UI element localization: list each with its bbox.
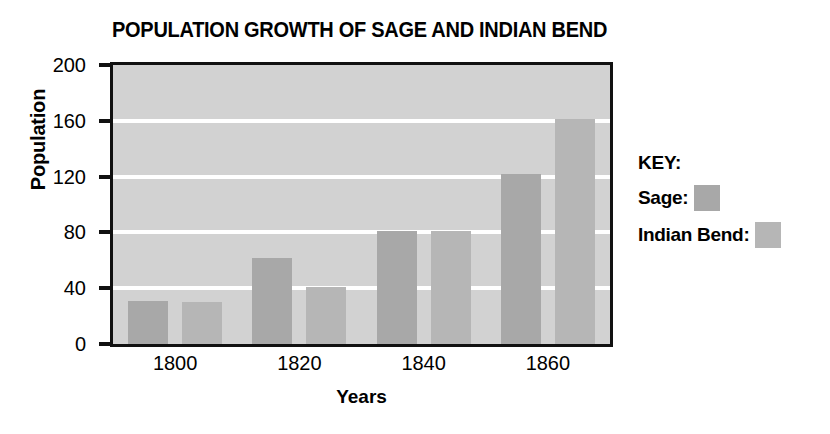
- legend-title: KEY:: [638, 152, 828, 174]
- legend-swatch-indianbend: [755, 222, 781, 248]
- bar-chart-figure: POPULATION GROWTH OF SAGE AND INDIAN BEN…: [0, 0, 830, 434]
- bar-sage-1800: [128, 301, 168, 344]
- y-tick-label-40: 40: [28, 277, 86, 300]
- plot-area: [110, 62, 613, 347]
- y-tick-mark-120: [99, 175, 110, 179]
- y-tick-mark-160: [99, 119, 110, 123]
- x-axis-title: Years: [110, 386, 613, 408]
- bar-indian-bend-1800: [182, 302, 222, 344]
- y-tick-label-200: 200: [28, 54, 86, 77]
- gridline-160: [113, 119, 610, 123]
- legend-entry-label: Sage:: [638, 187, 688, 209]
- x-tick-label-1800: 1800: [125, 352, 225, 375]
- bar-sage-1820: [252, 258, 292, 344]
- chart-title: POPULATION GROWTH OF SAGE AND INDIAN BEN…: [112, 18, 596, 43]
- x-axis-tick-labels: 1800182018401860: [110, 352, 613, 382]
- y-tick-mark-80: [99, 230, 110, 234]
- legend-entry-label: Indian Bend:: [638, 224, 749, 246]
- chart-legend: KEY: Sage:Indian Bend:: [638, 152, 828, 259]
- bar-indian-bend-1840: [431, 231, 471, 344]
- bar-indian-bend-1860: [555, 119, 595, 344]
- plot-inner: [113, 65, 610, 344]
- y-tick-label-160: 160: [28, 109, 86, 132]
- y-tick-mark-200: [99, 63, 110, 67]
- legend-entry-sage: Sage:: [638, 185, 828, 211]
- bar-indian-bend-1820: [306, 287, 346, 344]
- bar-sage-1840: [377, 231, 417, 344]
- bar-sage-1860: [501, 174, 541, 344]
- y-tick-mark-40: [99, 286, 110, 290]
- y-tick-label-120: 120: [28, 165, 86, 188]
- x-tick-label-1860: 1860: [498, 352, 598, 375]
- legend-entries: Sage:Indian Bend:: [638, 185, 828, 248]
- y-tick-label-0: 0: [28, 333, 86, 356]
- x-tick-label-1840: 1840: [374, 352, 474, 375]
- y-tick-mark-0: [99, 342, 110, 346]
- y-tick-label-80: 80: [28, 221, 86, 244]
- y-axis-tick-marks: [99, 62, 110, 347]
- x-tick-label-1820: 1820: [249, 352, 349, 375]
- legend-swatch-sage: [694, 185, 720, 211]
- y-axis-tick-labels: 04080120160200: [28, 62, 86, 347]
- legend-entry-indian-bend: Indian Bend:: [638, 222, 828, 248]
